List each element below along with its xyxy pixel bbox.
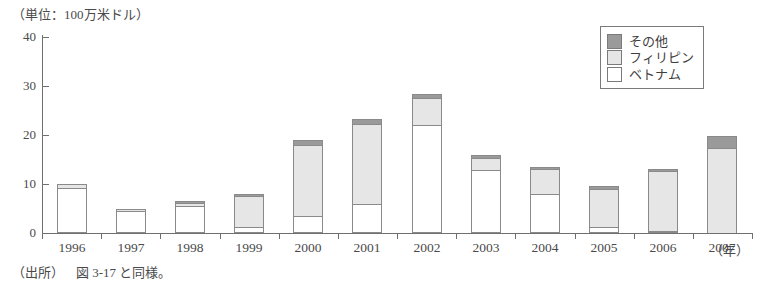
x-tick-mark (515, 233, 516, 239)
bar-segment-ベトナム (412, 125, 442, 233)
y-tick-mark (43, 233, 49, 234)
x-tick-label-1996: 1996 (44, 240, 100, 256)
bar-2000 (293, 0, 323, 233)
bar-segment-ベトナム (293, 216, 323, 233)
bar-2003 (471, 0, 501, 233)
bar-segment-ベトナム (57, 188, 87, 233)
figure-container: （単位：100万米ドル） 010203040 19961997199819992… (0, 0, 768, 292)
bar-2004 (530, 0, 560, 233)
bar-segment-その他 (707, 136, 737, 147)
source-note: （出所）図 3-17 と同様。 (12, 262, 171, 281)
y-tick-label: 30 (10, 78, 36, 94)
bar-2002 (412, 0, 442, 233)
bar-segment-ベトナム (648, 231, 678, 233)
bar-segment-フィリピン (707, 148, 737, 233)
x-tick-label-1999: 1999 (221, 240, 277, 256)
legend-item-other: その他 (607, 34, 694, 49)
legend-swatch-philippines-icon (607, 50, 622, 65)
legend-item-philippines: フィリピン (607, 50, 694, 65)
x-tick-label-1998: 1998 (162, 240, 218, 256)
x-tick-mark (634, 233, 635, 239)
bar-segment-ベトナム (234, 227, 264, 233)
legend-label-philippines: フィリピン (629, 50, 694, 65)
x-tick-label-2001: 2001 (339, 240, 395, 256)
bar-segment-フィリピン (589, 189, 619, 227)
x-tick-mark (752, 233, 753, 239)
legend: その他 フィリピン ベトナム (600, 26, 704, 89)
x-tick-mark (338, 233, 339, 239)
bar-segment-ベトナム (471, 170, 501, 233)
x-tick-label-2000: 2000 (280, 240, 336, 256)
x-tick-mark (575, 233, 576, 239)
legend-label-vietnam: ベトナム (629, 67, 681, 82)
y-tick-label: 20 (10, 127, 36, 143)
legend-swatch-other-icon (607, 34, 622, 49)
x-tick-mark (42, 233, 43, 239)
bar-segment-フィリピン (234, 196, 264, 227)
bar-segment-フィリピン (471, 158, 501, 170)
y-tick-mark (43, 37, 49, 38)
x-tick-mark (456, 233, 457, 239)
bar-segment-ベトナム (175, 206, 205, 233)
bar-1996 (57, 0, 87, 233)
x-tick-mark (279, 233, 280, 239)
bar-segment-フィリピン (648, 171, 678, 231)
y-tick-mark (43, 135, 49, 136)
x-tick-mark (397, 233, 398, 239)
bar-segment-フィリピン (293, 145, 323, 216)
bar-segment-ベトナム (589, 227, 619, 233)
y-tick-label: 0 (10, 225, 36, 241)
bar-segment-ベトナム (352, 204, 382, 233)
bar-segment-フィリピン (352, 124, 382, 204)
bar-segment-フィリピン (530, 169, 560, 194)
x-tick-label-2006: 2006 (635, 240, 691, 256)
source-text: 図 3-17 と同様。 (76, 265, 171, 280)
x-tick-label-2005: 2005 (576, 240, 632, 256)
x-tick-mark (220, 233, 221, 239)
legend-item-vietnam: ベトナム (607, 67, 694, 82)
y-tick-label: 40 (10, 29, 36, 45)
x-tick-label-2004: 2004 (517, 240, 573, 256)
bar-1997 (116, 0, 146, 233)
bar-2001 (352, 0, 382, 233)
x-tick-mark (160, 233, 161, 239)
y-tick-mark (43, 86, 49, 87)
source-prefix: （出所） (12, 265, 64, 280)
x-tick-label-2003: 2003 (458, 240, 514, 256)
bar-segment-ベトナム (116, 211, 146, 233)
x-tick-mark (101, 233, 102, 239)
y-tick-label: 10 (10, 176, 36, 192)
x-tick-label-2002: 2002 (399, 240, 455, 256)
bar-1999 (234, 0, 264, 233)
legend-label-other: その他 (629, 34, 668, 49)
bar-segment-ベトナム (530, 194, 560, 233)
x-tick-label-1997: 1997 (103, 240, 159, 256)
y-tick-mark (43, 184, 49, 185)
bar-segment-フィリピン (412, 98, 442, 125)
bar-1998 (175, 0, 205, 233)
bar-2007 (707, 0, 737, 233)
x-tick-mark (693, 233, 694, 239)
legend-swatch-vietnam-icon (607, 67, 622, 82)
x-axis-unit-label: （年） (710, 240, 749, 259)
